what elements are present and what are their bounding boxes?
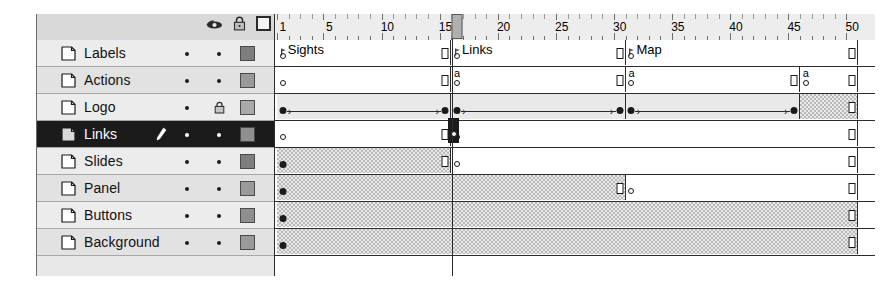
end-frame-marker[interactable] [849, 156, 856, 167]
keyframe-empty[interactable] [280, 134, 286, 140]
frame-row-actions[interactable]: aaa [275, 67, 875, 94]
end-frame-marker[interactable] [849, 210, 856, 221]
end-frame-marker[interactable] [849, 48, 856, 59]
end-frame-marker[interactable] [849, 237, 856, 248]
keyframe-empty[interactable] [628, 80, 634, 86]
layer-outline-color-swatch[interactable] [240, 44, 254, 62]
layer-visibility-toggle[interactable] [180, 44, 194, 62]
layer-lock-toggle[interactable] [212, 179, 226, 197]
end-frame-marker[interactable] [849, 183, 856, 194]
frame-row-logo[interactable]: ›››››› [275, 94, 875, 121]
layer-visibility-toggle[interactable] [180, 125, 194, 143]
end-frame-marker[interactable] [616, 183, 623, 194]
end-frame-marker[interactable] [442, 48, 449, 59]
keyframe-empty[interactable] [451, 131, 457, 137]
end-frame-marker[interactable] [616, 75, 623, 86]
frame-span[interactable] [277, 229, 858, 254]
keyframe-empty[interactable] [803, 80, 809, 86]
frame-row-background[interactable] [275, 229, 875, 256]
layer-page-icon [61, 100, 76, 115]
layer-outline-color-swatch[interactable] [240, 233, 254, 251]
frame-span[interactable] [277, 175, 626, 200]
keyframe-filled[interactable] [791, 107, 798, 114]
layer-row-panel[interactable]: Panel [37, 175, 275, 202]
layer-lock-toggle[interactable] [212, 44, 226, 62]
end-frame-marker[interactable] [616, 48, 623, 59]
keyframe-filled[interactable] [279, 215, 286, 222]
layer-name-label: Logo [84, 99, 116, 115]
lock-icon[interactable] [233, 16, 246, 35]
layer-lock-toggle[interactable] [212, 100, 226, 118]
ruler-tick-bottom [672, 33, 673, 40]
end-frame-marker[interactable] [442, 75, 449, 86]
keyframe-filled[interactable] [279, 161, 286, 168]
end-frame-marker[interactable] [849, 75, 856, 86]
end-frame-marker[interactable] [849, 102, 856, 113]
playhead-handle[interactable] [452, 14, 463, 39]
keyframe-filled[interactable] [279, 188, 286, 195]
layer-visibility-toggle[interactable] [180, 98, 194, 116]
keyframe-empty[interactable] [280, 80, 286, 86]
ruler-tick [277, 14, 278, 20]
frame-grid[interactable]: Sights Links Mapaaa›››››› [275, 40, 875, 276]
layer-row-background[interactable]: Background [37, 229, 275, 256]
ruler-tick [707, 14, 708, 19]
layer-outline-color-swatch[interactable] [240, 152, 254, 170]
keyframe-empty[interactable] [454, 161, 460, 167]
layer-outline-color-swatch[interactable] [240, 71, 254, 89]
layer-lock-toggle[interactable] [212, 71, 226, 89]
layer-outline-color-swatch[interactable] [240, 125, 254, 143]
outline-square-icon[interactable] [256, 16, 271, 35]
layer-outline-color-swatch[interactable] [240, 206, 254, 224]
frame-ruler[interactable]: 15101520253035404550 [275, 14, 875, 41]
layer-row-buttons[interactable]: Buttons [37, 202, 275, 229]
eye-icon[interactable] [206, 17, 223, 35]
frame-row-labels[interactable]: Sights Links Map [275, 40, 875, 67]
keyframe-filled[interactable] [628, 107, 635, 114]
layer-visibility-toggle[interactable] [180, 179, 194, 197]
frame-row-links[interactable] [275, 121, 875, 148]
frame-row-buttons[interactable] [275, 202, 875, 229]
layer-lock-toggle[interactable] [212, 206, 226, 224]
end-frame-marker[interactable] [849, 129, 856, 140]
layer-row-logo[interactable]: Logo [37, 94, 275, 121]
layer-visibility-toggle[interactable] [180, 206, 194, 224]
frame-span[interactable] [451, 94, 625, 119]
frame-span[interactable] [451, 121, 858, 146]
layer-row-slides[interactable]: Slides [37, 148, 275, 175]
keyframe-filled[interactable] [442, 107, 449, 114]
layer-lock-toggle[interactable] [212, 233, 226, 251]
ruler-number: 20 [497, 20, 510, 34]
frame-span[interactable] [626, 67, 800, 92]
frame-span[interactable] [626, 175, 858, 200]
layer-outline-color-swatch[interactable] [240, 98, 254, 116]
frame-span[interactable] [277, 94, 451, 119]
layer-row-actions[interactable]: Actions [37, 67, 275, 94]
keyframe-empty[interactable] [628, 188, 634, 194]
frame-span[interactable] [451, 148, 858, 173]
frame-span[interactable] [451, 67, 625, 92]
ruler-number: 40 [729, 20, 742, 34]
frame-span[interactable] [277, 202, 858, 227]
keyframe-filled[interactable] [616, 107, 623, 114]
keyframe-filled[interactable] [279, 107, 286, 114]
layer-row-labels[interactable]: Labels [37, 40, 275, 67]
layer-visibility-toggle[interactable] [180, 152, 194, 170]
frame-row-panel[interactable] [275, 175, 875, 202]
end-frame-marker[interactable] [791, 75, 798, 86]
frame-span[interactable] [626, 94, 800, 119]
frame-span[interactable] [277, 67, 451, 92]
layer-visibility-toggle[interactable] [180, 71, 194, 89]
end-frame-marker[interactable] [442, 156, 449, 167]
frame-span[interactable] [277, 148, 451, 173]
keyframe-filled[interactable] [454, 107, 461, 114]
layer-outline-color-swatch[interactable] [240, 179, 254, 197]
layer-lock-toggle[interactable] [212, 125, 226, 143]
frame-span[interactable] [277, 121, 451, 146]
keyframe-empty[interactable] [454, 80, 460, 86]
layer-lock-toggle[interactable] [212, 152, 226, 170]
layer-visibility-toggle[interactable] [180, 233, 194, 251]
keyframe-filled[interactable] [279, 242, 286, 249]
layer-row-links[interactable]: Links [37, 121, 275, 148]
frame-row-slides[interactable] [275, 148, 875, 175]
